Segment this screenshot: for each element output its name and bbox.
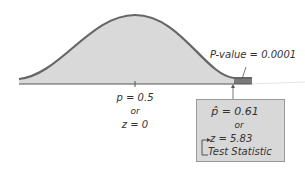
curve-fill [19,15,234,84]
test-statistic-label: Test Statistic [208,146,272,157]
box-or-label: or [234,120,243,130]
p-value-label: P-value = 0.0001 [210,49,296,60]
normal-curve-figure: P-value = 0.0001 p = 0.5 or z = 0 p̂ = 0… [0,0,305,174]
z-statistic-label: z = 5.83 [210,133,252,144]
p-hat-label: p̂ = 0.61 [211,105,259,118]
center-or-label: or [130,106,139,116]
center-p-label: p = 0.5 [117,92,154,103]
bracket-arrow-icon [200,138,214,163]
center-z-label: z = 0 [122,119,148,130]
test-statistic-box: p̂ = 0.61 or z = 5.83 Test Statistic [196,99,285,162]
